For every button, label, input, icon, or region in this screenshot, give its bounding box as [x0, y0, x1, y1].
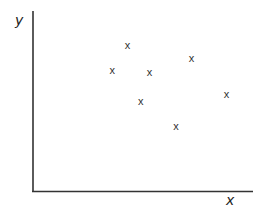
y-axis-label: y	[15, 13, 23, 27]
data-point-marker: x	[125, 39, 131, 51]
data-points: xxxxxxx	[109, 39, 229, 132]
data-point-marker: x	[224, 88, 230, 100]
x-axis-label: x	[226, 193, 234, 207]
data-point-marker: x	[109, 64, 115, 76]
data-point-marker: x	[173, 120, 179, 132]
data-point-marker: x	[189, 52, 195, 64]
scatter-plot: xxxxxxx	[0, 0, 264, 217]
data-point-marker: x	[147, 66, 153, 78]
data-point-marker: x	[138, 95, 144, 107]
